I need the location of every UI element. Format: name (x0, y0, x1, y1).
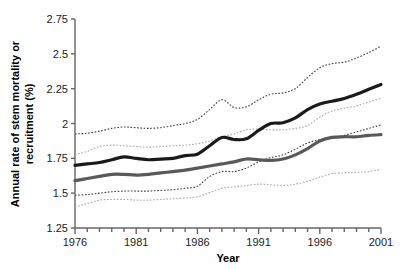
y-tick-label: 1.25 (47, 222, 68, 234)
series-line (75, 46, 381, 134)
y-tick-label: 1.5 (53, 187, 68, 199)
x-tick-label: 1991 (246, 236, 270, 248)
y-tick-label: 2.5 (53, 48, 68, 60)
chart-figure: 1.251.51.7522.252.52.75 1976198119861991… (0, 0, 402, 269)
y-tick-label: 2.75 (47, 13, 68, 25)
y-tick-label: 2.25 (47, 83, 68, 95)
line-chart: 1.251.51.7522.252.52.75 1976198119861991… (0, 0, 402, 269)
data-series-group (75, 46, 381, 207)
series-line (75, 84, 381, 165)
y-tick-label: 1.75 (47, 152, 68, 164)
x-axis: 197619811986199119962001 (63, 228, 393, 248)
x-axis-title: Year (216, 252, 240, 264)
x-tick-label: 1981 (124, 236, 148, 248)
x-tick-label: 1976 (63, 236, 87, 248)
x-tick-label: 1996 (308, 236, 332, 248)
x-tick-label: 1986 (185, 236, 209, 248)
y-axis-title-line1: Annual rate of stem mortality or (9, 40, 21, 207)
y-tick-label: 2 (62, 118, 68, 130)
y-axis: 1.251.51.7522.252.52.75 (47, 13, 75, 234)
y-axis-title-line2: recruitment (%) (23, 83, 35, 164)
x-tick-label: 2001 (369, 236, 393, 248)
